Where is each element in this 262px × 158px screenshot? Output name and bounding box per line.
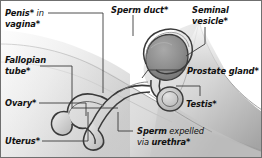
label-fallopian-tube: Fallopiantube*	[5, 55, 46, 76]
label-testis: Testis*	[186, 99, 217, 110]
label-ovary: Ovary*	[5, 98, 36, 109]
label-fallopian-line2: tube*	[5, 66, 30, 76]
label-sperm-duct: Sperm duct*	[111, 5, 168, 16]
label-sperm-bold: Sperm	[137, 126, 167, 136]
label-vagina-bold: vagina*	[5, 19, 40, 29]
anatomy-diagram-figure: Penis* invagina* Fallopiantube* Ovary* U…	[0, 0, 262, 158]
label-uterus: Uterus*	[5, 136, 40, 147]
label-fallopian-line1: Fallopian	[5, 55, 46, 65]
label-penis-in-vagina: Penis* invagina*	[5, 8, 44, 29]
label-seminal-vesicle: Seminalvesicle*	[192, 5, 229, 26]
label-seminal-line2: vesicle*	[192, 16, 228, 26]
label-sperm-expelled: Sperm expelledvia urethra*	[137, 126, 204, 147]
label-expelled-word: expelled	[167, 126, 204, 136]
label-urethra-bold: urethra*	[152, 137, 191, 147]
label-via-word: via	[137, 137, 152, 147]
label-penis-connector: in	[34, 8, 44, 18]
label-penis-bold: Penis*	[5, 8, 34, 18]
label-prostate-gland: Prostate gland*	[187, 66, 259, 77]
label-seminal-line1: Seminal	[192, 5, 229, 15]
